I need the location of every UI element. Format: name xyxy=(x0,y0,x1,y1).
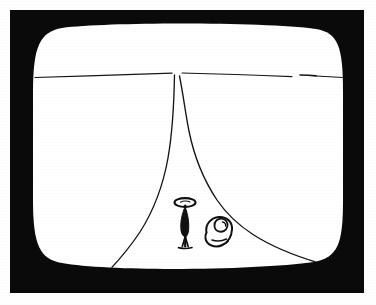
tv-screen-svg xyxy=(0,0,376,305)
tv-screen-container xyxy=(0,0,376,305)
horizon-line-tick xyxy=(300,75,316,76)
page-root: Hand-drawn perspective landscape on a te… xyxy=(0,0,376,305)
figure-base-line xyxy=(179,248,193,249)
